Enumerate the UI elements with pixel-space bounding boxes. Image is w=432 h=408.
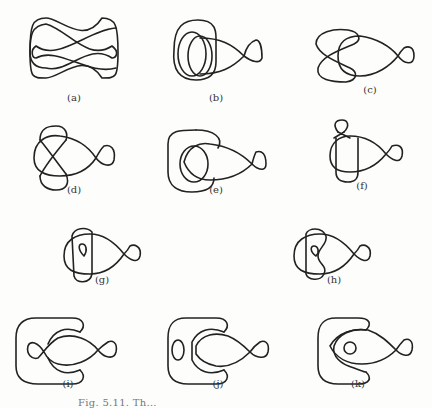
curve-drawing-i (14, 316, 130, 386)
panel-label-b: (b) (209, 92, 223, 103)
figure-panel-d: (d) (30, 124, 120, 194)
figure-panel-c: (c) (314, 26, 418, 86)
panel-label-d: (d) (67, 184, 81, 195)
panel-label-j: (j) (213, 378, 224, 389)
figure-panel-j: (j) (166, 316, 276, 386)
panel-label-h: (h) (327, 274, 341, 285)
figure-panel-b: (b) (170, 18, 270, 80)
curve-drawing-a (28, 16, 120, 80)
figure-panel-e: (e) (166, 124, 274, 196)
curve-drawing-f (326, 118, 412, 194)
figure-panel-f: (f) (326, 118, 412, 194)
figure-panel-h: (h) (292, 226, 376, 288)
panel-label-e: (e) (209, 184, 223, 195)
panel-label-c: (c) (363, 84, 376, 95)
panel-label-f: (f) (356, 180, 368, 191)
figure-panel-a: (a) (28, 16, 120, 80)
figure-panel-k: (k) (316, 316, 424, 386)
panel-label-a: (a) (67, 92, 81, 103)
curve-drawing-c (314, 26, 418, 86)
figure-panel-g: (g) (62, 226, 146, 288)
figure-panel-i: (i) (14, 316, 130, 386)
curve-drawing-b (170, 18, 270, 80)
curve-drawing-j (166, 316, 276, 386)
panel-label-i: (i) (62, 378, 73, 389)
panel-label-g: (g) (95, 274, 109, 285)
figure-caption: Fig. 5.11. Th… (78, 397, 157, 408)
panel-label-k: (k) (351, 378, 365, 389)
curve-drawing-k (316, 316, 424, 386)
